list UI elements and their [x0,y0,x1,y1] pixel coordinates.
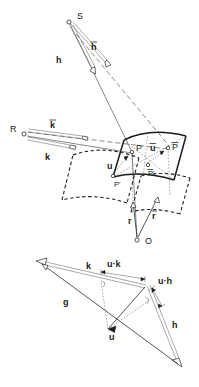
label-point-pbarprime: P' [148,169,156,178]
ray-s-to-p [70,24,132,152]
label-vector-k: k [45,152,51,162]
vector-u [113,156,128,174]
vector-k [28,137,77,150]
label-vector-g-triangle: g [63,297,69,307]
figure-root: S R O P P P' P' h h [0,0,199,387]
lower-patch-left-edge [62,155,73,200]
label-vector-hbar: h [91,42,98,52]
label-point-pprime: P' [114,180,121,189]
label-point-pbar-text: P [172,142,178,152]
label-point-pbar: P [172,142,179,152]
label-vector-rbar-text: r [152,211,156,221]
point-s [67,20,71,24]
lower-patch-bottom-edge [62,197,127,203]
label-vector-ubar-text: u [150,143,156,153]
point-pprime [111,174,114,177]
point-pbarprime [146,163,149,166]
label-projection-u-dot-k: u·k [107,259,121,269]
label-point-p: P [136,143,142,153]
label-vector-r: r [128,216,132,226]
label-point-r: R [10,124,17,134]
label-vector-h: h [56,55,62,65]
label-vector-k-triangle: k [86,261,92,271]
projection-line-u-k [101,281,108,329]
label-point-s: S [77,11,83,21]
patch-left-edge [113,140,124,177]
source-rays [70,24,170,238]
point-o [135,238,139,242]
label-projection-u-dot-h: u·h [158,276,172,286]
label-vector-ubar: u [150,143,157,153]
patch-top-edge [124,132,186,140]
vector-rbar [138,197,160,237]
label-vector-rbar: r [152,211,158,221]
lower-surface-patch-right [131,173,190,214]
label-vector-kbar: k [50,120,57,130]
lower-surface-patch [62,150,139,203]
lower-diagram: k g h u u·k u·h [36,258,182,367]
label-vector-kbar-text: k [50,120,56,130]
diffraction-geometry-figure: S R O P P P' P' h h [0,0,199,387]
dimension-u-dot-k [101,269,145,282]
drop-line-pbar [168,148,170,196]
point-pbar [166,146,169,149]
label-vector-u: u [107,161,113,171]
point-r [22,132,26,136]
upper-diagram: S R O P P P' P' h h [10,11,190,246]
label-vector-hbar-text: h [91,42,97,52]
label-point-o: O [145,236,152,246]
label-vector-u-triangle: u [109,332,115,342]
label-vector-h-triangle: h [172,320,178,330]
projection-line-u-h [108,300,150,329]
lower-patch-top-edge [73,150,139,158]
label-point-pbarprime-text: P' [148,169,155,178]
point-p [130,150,133,153]
